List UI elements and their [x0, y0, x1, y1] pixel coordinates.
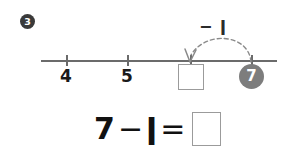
equation-answer-box[interactable]: [192, 112, 221, 146]
worksheet-page: 3 4 5 7 − ǀ 7 − ǀ =: [0, 0, 290, 160]
problem-number-badge: 3: [20, 14, 35, 29]
equation-left-operand: 7: [94, 114, 115, 144]
equation-right-operand: ǀ: [146, 114, 157, 144]
equation-minus-operator: −: [115, 114, 146, 144]
number-line-tick-4: [66, 55, 68, 66]
number-line-label-5: 5: [115, 66, 139, 86]
equation-row: 7 − ǀ =: [94, 108, 221, 150]
jump-label: − ǀ: [199, 17, 227, 36]
number-line-tick-5: [127, 55, 129, 66]
equation-equals-sign: =: [157, 114, 188, 144]
number-line-label-4: 4: [54, 66, 78, 86]
